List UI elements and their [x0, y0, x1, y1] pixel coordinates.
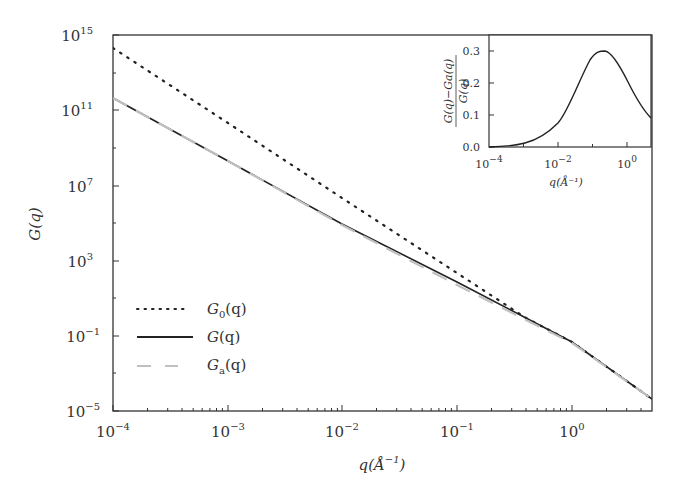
svg-text:0.1: 0.1 — [463, 109, 481, 122]
y-tick-1e-1: 10−1 — [66, 326, 100, 346]
inset-chart: 0.3 0.2 0.1 0.0 10−4 10−2 100 q(Å⁻¹) G(q… — [442, 35, 651, 189]
main-x-axis-label: q(Å−1) — [359, 454, 406, 474]
y-tick-1e-5: 10−5 — [66, 401, 100, 421]
main-x-tick-labels: 10−4 10−3 10−2 10−1 100 — [96, 421, 585, 441]
legend-label-g: G(q) — [207, 328, 240, 346]
svg-text:0.0: 0.0 — [463, 141, 481, 154]
main-x-ticks — [113, 405, 641, 411]
y-tick-1e11: 1011 — [61, 100, 93, 120]
y-tick-1e15: 1015 — [61, 25, 93, 45]
svg-text:G(q): G(q) — [457, 79, 470, 103]
inset-x-tick-labels: 10−4 10−2 100 — [475, 154, 637, 171]
legend: G0(q) G(q) Ga(q) — [137, 300, 247, 376]
chart-canvas: 1015 1011 107 103 10−1 10−5 10−4 10−3 10… — [0, 0, 683, 498]
x-tick-1e0: 100 — [559, 421, 584, 441]
y-tick-1e3: 103 — [68, 251, 93, 271]
legend-label-ga: Ga(q) — [207, 356, 246, 376]
svg-text:G(q)−Ga(q): G(q)−Ga(q) — [442, 59, 455, 124]
inset-frame — [489, 35, 651, 147]
x-tick-1e-3: 10−3 — [211, 421, 245, 441]
main-y-tick-labels: 1015 1011 107 103 10−1 10−5 — [61, 25, 100, 421]
x-tick-1e-2: 10−2 — [325, 421, 359, 441]
x-tick-1e-1: 10−1 — [440, 421, 474, 441]
legend-label-g0: G0(q) — [207, 300, 247, 320]
x-tick-1e-4: 10−4 — [96, 421, 130, 441]
inset-x-axis-label: q(Å⁻¹) — [549, 175, 583, 189]
main-y-ticks — [113, 35, 119, 411]
svg-text:100: 100 — [617, 154, 637, 171]
svg-text:10−2: 10−2 — [544, 154, 571, 171]
y-tick-1e7: 107 — [68, 176, 93, 196]
svg-text:0.3: 0.3 — [463, 45, 481, 58]
svg-text:10−4: 10−4 — [475, 154, 503, 171]
main-y-axis-label: G(q) — [26, 207, 44, 240]
